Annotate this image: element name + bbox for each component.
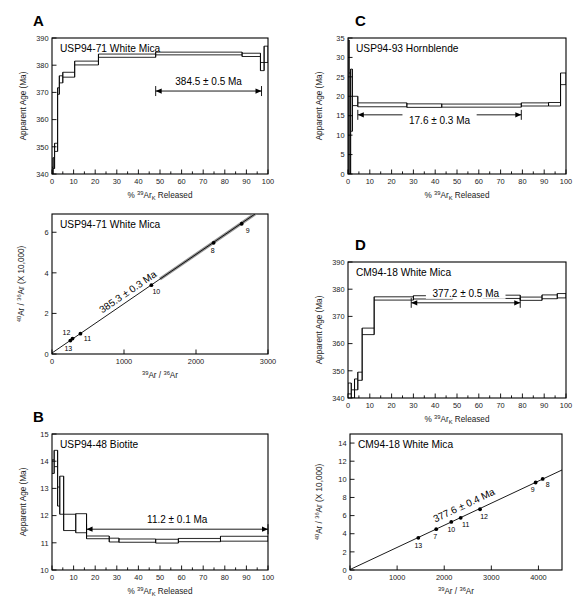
svg-text:15: 15 (40, 430, 48, 439)
svg-text:4: 4 (44, 269, 48, 278)
svg-text:390: 390 (332, 258, 344, 267)
svg-text:80: 80 (221, 177, 229, 186)
age-spectrum-svg-c: 01020304050607080901000510152025303517.6… (300, 32, 584, 210)
data-point-label: 9 (531, 486, 535, 493)
svg-text:30: 30 (336, 53, 344, 62)
data-point (534, 481, 538, 485)
svg-text:% 39ArK Released: % 39ArK Released (128, 190, 193, 201)
age-spectrum-svg-a: 0102030405060708090100340350360370380390… (8, 32, 286, 210)
age-spectrum-steps (348, 40, 566, 176)
plot-frame (52, 214, 268, 354)
svg-text:40Ar / 36Ar (X 10,000): 40Ar / 36Ar (X 10,000) (314, 463, 324, 540)
panel-letter-b: B (33, 408, 44, 425)
svg-text:340: 340 (36, 170, 48, 179)
svg-text:11.2 ± 0.1 Ma: 11.2 ± 0.1 Ma (147, 514, 208, 525)
svg-text:0: 0 (342, 566, 346, 575)
svg-text:0: 0 (44, 350, 48, 359)
svg-text:4000: 4000 (530, 573, 546, 582)
plateau-age-label: 11.2 ± 0.1 Ma (140, 513, 214, 525)
panel-b-spectrum-chart: 010203040506070809010010111213141511.2 ±… (8, 428, 286, 606)
svg-text:Apparent Age (Ma): Apparent Age (Ma) (19, 71, 28, 140)
svg-text:2: 2 (44, 309, 48, 318)
x-axis-title: % 39ArK Released (425, 190, 490, 201)
svg-text:80: 80 (518, 177, 526, 186)
svg-text:50: 50 (156, 177, 164, 186)
svg-text:8: 8 (342, 493, 346, 502)
svg-text:11: 11 (41, 539, 49, 548)
isochron-points: 1312111089 (63, 222, 250, 352)
data-point (212, 241, 216, 245)
y-axis-title: 40Ar / 36Ar (X 10,000) (314, 463, 324, 540)
svg-text:40Ar / 36Ar (X 10,000): 40Ar / 36Ar (X 10,000) (16, 245, 26, 322)
svg-text:90: 90 (540, 401, 548, 410)
data-point (459, 516, 463, 520)
x-axis-ticks: 0102030405060708090100 (346, 394, 572, 410)
data-point-label: 13 (64, 345, 72, 352)
svg-text:20: 20 (387, 177, 395, 186)
data-point-label: 12 (480, 513, 488, 520)
svg-text:70: 70 (199, 177, 207, 186)
svg-text:14: 14 (338, 439, 346, 448)
data-point (71, 337, 75, 341)
y-axis-title: Apparent Age (Ma) (19, 71, 28, 140)
panel-c-spectrum-chart: 01020304050607080901000510152025303517.6… (300, 32, 584, 210)
data-point-label: 10 (447, 526, 455, 533)
svg-text:10: 10 (366, 177, 374, 186)
svg-text:20: 20 (387, 401, 395, 410)
plateau-age-label: 377.2 ± 0.5 Ma (426, 287, 506, 299)
svg-text:40: 40 (431, 177, 439, 186)
svg-text:70: 70 (496, 177, 504, 186)
svg-text:100: 100 (262, 573, 274, 582)
svg-text:40: 40 (134, 177, 142, 186)
y-axis-title: Apparent Age (Ma) (19, 467, 28, 536)
svg-text:90: 90 (540, 177, 548, 186)
svg-text:30: 30 (113, 573, 121, 582)
svg-text:350: 350 (36, 143, 48, 152)
svg-text:17.6 ± 0.3 Ma: 17.6 ± 0.3 Ma (409, 115, 471, 126)
y-axis-ticks: 05101520253035 (336, 34, 352, 179)
x-axis-title: % 39ArK Released (425, 414, 490, 425)
plot-frame (348, 262, 566, 398)
svg-text:Apparent Age (Ma): Apparent Age (Ma) (315, 295, 324, 364)
svg-text:70: 70 (496, 401, 504, 410)
y-axis-ticks: 340350360370380390 (332, 258, 352, 403)
svg-text:90: 90 (242, 573, 250, 582)
svg-text:0: 0 (348, 573, 352, 582)
svg-text:360: 360 (36, 115, 48, 124)
age-spectrum-steps (52, 46, 268, 178)
y-axis-title: Apparent Age (Ma) (315, 71, 324, 140)
data-point (541, 477, 545, 481)
x-axis-ticks: 0102030405060708090100 (50, 566, 274, 582)
svg-text:10: 10 (40, 566, 48, 575)
plot-frame (52, 434, 268, 570)
svg-text:40: 40 (431, 401, 439, 410)
svg-text:Apparent Age (Ma): Apparent Age (Ma) (19, 467, 28, 536)
plot-title: CM94-18 White Mica (358, 439, 453, 450)
plot-title: USP94-48 Biotite (60, 439, 138, 450)
svg-text:0: 0 (340, 170, 344, 179)
x-axis-title: % 39ArK Released (128, 586, 193, 597)
svg-text:70: 70 (199, 573, 207, 582)
y-axis-ticks: 02468101214 (338, 439, 354, 575)
plot-title: USP94-71 White Mica (60, 43, 161, 54)
data-point-label: 11 (84, 335, 91, 342)
x-axis-ticks: 0102030405060708090100 (346, 170, 572, 186)
svg-text:100: 100 (560, 401, 572, 410)
svg-text:30: 30 (409, 401, 417, 410)
svg-text:380: 380 (332, 285, 344, 294)
svg-text:14: 14 (40, 457, 48, 466)
svg-text:10: 10 (69, 177, 77, 186)
plot-title: USP94-71 White Mica (60, 219, 161, 230)
svg-text:15: 15 (336, 111, 344, 120)
data-point (79, 332, 83, 336)
plateau-age-label: 384.5 ± 0.5 Ma (169, 75, 249, 87)
svg-text:4: 4 (342, 529, 346, 538)
data-point (478, 507, 482, 511)
svg-text:50: 50 (156, 573, 164, 582)
data-point (149, 283, 153, 287)
svg-text:1000: 1000 (389, 573, 405, 582)
plateau-age-label: 17.6 ± 0.3 Ma (402, 114, 476, 126)
svg-text:39Ar / 36Ar: 39Ar / 36Ar (438, 586, 474, 596)
panel-a-spectrum-chart: 0102030405060708090100340350360370380390… (8, 32, 286, 210)
svg-text:350: 350 (332, 367, 344, 376)
